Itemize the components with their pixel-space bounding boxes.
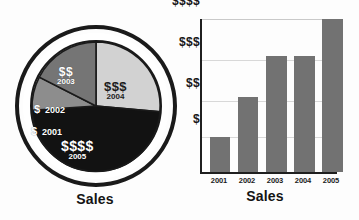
bar-chart-caption: Sales [190, 188, 340, 204]
y-tick-label-3: $$$ [179, 35, 200, 49]
x-axis-line [200, 172, 337, 174]
bar-series-layer [202, 19, 337, 172]
chart-screenshot: $$$ 2004 $$$$ 2005 $$ 2003 $ 2002 $ 2001… [0, 0, 359, 220]
pie-chart-panel: $$$ 2004 $$$$ 2005 $$ 2003 $ 2002 $ 2001… [0, 0, 180, 220]
pie-chart-caption: Sales [0, 191, 190, 207]
bar-chart-panel: $$$$ $$$ $$ $ 2001 2002 2003 2004 20 [180, 0, 359, 220]
bar-2002[interactable] [238, 97, 258, 172]
y-tick-label-2: $$ [186, 76, 200, 90]
bar-2005[interactable] [322, 19, 343, 172]
pie-chart-graphic [14, 24, 178, 188]
bar-2001[interactable] [210, 137, 230, 172]
bar-chart-y-axis-labels: $$$$ $$$ $$ $ [180, 0, 200, 180]
bar-2004[interactable] [294, 56, 315, 172]
bar-chart-plot-area: 2001 2002 2003 2004 2005 [200, 19, 337, 173]
pie-slice-2004[interactable] [96, 42, 160, 112]
bar-2003[interactable] [266, 56, 287, 172]
x-tick-label-2005: 2005 [312, 176, 350, 185]
y-tick-label-4: $$$$ [172, 0, 200, 8]
y-tick-label-1: $ [193, 112, 200, 126]
